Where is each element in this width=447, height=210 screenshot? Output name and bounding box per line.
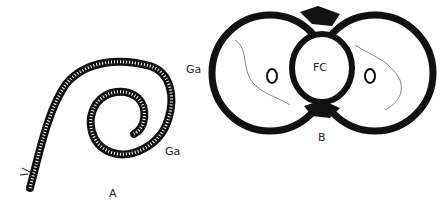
panel-a-label: A [109,188,117,199]
illustration [0,0,447,210]
figure: A Ga B Ga FC [0,0,447,210]
panel-a-ga-label: Ga [165,146,180,157]
panel-a-coil [20,62,171,188]
panel-b-ga-label: Ga [186,64,201,75]
panel-b-fc-label: FC [313,62,327,73]
panel-b-label: B [318,132,326,143]
